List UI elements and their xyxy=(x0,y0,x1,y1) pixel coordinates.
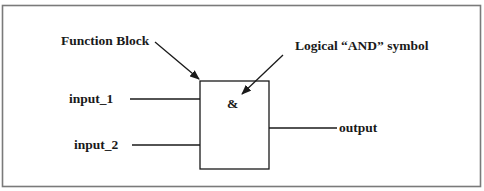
input-2-label: input_2 xyxy=(74,137,119,152)
function-block-label: Function Block xyxy=(61,33,150,48)
and-symbol-caption: Logical “AND” symbol xyxy=(295,38,429,53)
and-symbol: & xyxy=(227,96,238,111)
input-1-label: input_1 xyxy=(69,91,114,106)
output-label: output xyxy=(339,120,378,135)
function-block-diagram: Function Block Logical “AND” symbol & in… xyxy=(0,0,484,191)
